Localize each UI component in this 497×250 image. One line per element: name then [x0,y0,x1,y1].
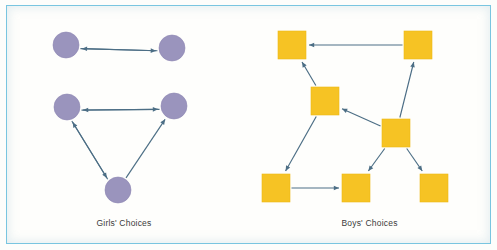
edge-arrow [126,119,165,178]
node-square-b5[interactable] [262,174,290,202]
arrowhead-icon [309,43,314,48]
node-square-b3[interactable] [311,87,339,115]
edge-arrow [82,49,158,51]
node-square-b7[interactable] [420,174,448,202]
node-square-b6[interactable] [342,174,370,202]
node-circle-g3[interactable] [54,94,80,120]
caption-girls-choices: Girls' Choices [6,218,242,228]
boys-sociogram-graph [248,5,491,245]
node-circle-g2[interactable] [159,35,185,61]
node-circle-g5[interactable] [105,177,131,203]
arrowhead-icon [368,165,373,171]
edge-arrow [400,62,414,118]
panel-boys-choices: Boys' Choices [248,5,491,245]
node-circle-g1[interactable] [53,32,79,58]
arrowhead-icon [417,165,422,171]
arrowhead-icon [82,47,87,52]
edge-arrow [73,122,108,179]
node-square-b1[interactable] [278,31,306,59]
node-square-b4[interactable] [382,119,410,147]
sociogram-figure: Girls' Choices Boys' Choices [0,0,497,250]
arrowhead-icon [160,119,165,125]
panel-girls-choices: Girls' Choices [6,5,242,245]
edge-arrow [342,109,381,126]
node-square-b2[interactable] [404,31,432,59]
edge-arrow [83,109,160,110]
node-circle-g4[interactable] [161,93,187,119]
edge-arrow [286,117,317,172]
arrowhead-icon [83,108,88,113]
caption-boys-choices: Boys' Choices [248,218,491,228]
girls-sociogram-graph [6,5,242,245]
arrowhead-icon [334,186,339,191]
